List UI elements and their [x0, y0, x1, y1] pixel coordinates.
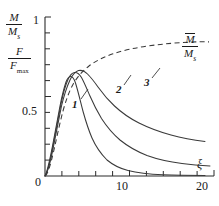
curve-2: [45, 72, 210, 176]
y-axis-label-ms-den: Ms: [6, 26, 22, 40]
curve-annotation-3: 3: [144, 77, 150, 88]
curve-1: [45, 77, 205, 177]
y-tick-label-0-5: 0.5: [22, 105, 37, 117]
y-tick-label-1: 1: [33, 14, 39, 26]
leader-curve-2: [124, 75, 131, 85]
x-tick-label-10: 10: [116, 180, 128, 192]
ms-denominator: Ms: [182, 48, 198, 62]
leader-curve-3: [152, 68, 160, 78]
leader-curve-1: [81, 89, 88, 99]
mbar-numerator: M: [182, 33, 198, 46]
y-axis-label-fmax-den: Fmax: [8, 60, 31, 75]
y-axis-label-m-over-ms: M Ms: [6, 12, 22, 40]
plot-area: [0, 0, 219, 206]
y-axis-label-f-num: F: [8, 46, 31, 58]
y-tick-label-0: 0: [35, 176, 41, 188]
y-axis-label-f-over-fmax: F Fmax: [8, 46, 31, 74]
curve-annotation-2: 2: [116, 84, 122, 95]
curve-3: [45, 70, 205, 176]
x-axis-label-xi: ξ: [197, 158, 202, 170]
y-axis-label-m-num: M: [6, 12, 22, 24]
figure-container: M Ms F Fmax M Ms 1 0.5 0 10 20 ξ 1 2 3: [0, 0, 219, 206]
x-tick-label-20: 20: [196, 180, 208, 192]
curve-mbar-over-ms: [46, 42, 210, 176]
curve-annotation-1: 1: [72, 99, 78, 110]
y-axis-ticks: [45, 17, 51, 160]
curve-label-mbar-over-ms: M Ms: [182, 33, 198, 62]
